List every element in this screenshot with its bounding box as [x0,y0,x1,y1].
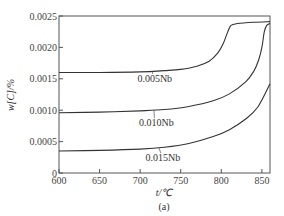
series-lines [59,22,270,151]
x-tick-label: 800 [214,175,229,186]
y-tick-label: 0.0005 [30,136,58,147]
series-line-0.005Nb [59,22,270,73]
x-tick-label: 700 [133,175,148,186]
y-tick-label: 0.0025 [30,11,58,22]
y-tick-label: 0.0020 [30,42,58,53]
series-label: 0.015Nb [146,152,181,163]
x-tick-label: 750 [173,175,188,186]
series-label: 0.005Nb [137,73,172,84]
y-axis: 00.00050.00100.00150.00200.0025 [30,11,64,179]
x-axis-label: t/℃ [156,187,175,198]
figure-caption: (a) [158,201,169,213]
x-tick-label: 600 [52,175,67,186]
line-chart: 00.00050.00100.00150.00200.0025 60065070… [0,0,284,216]
x-tick-label: 650 [92,175,107,186]
y-tick-label: 0.0015 [30,73,58,84]
plot-border [59,16,270,173]
x-tick-label: 850 [254,175,269,186]
y-tick-label: 0.0010 [30,105,58,116]
series-line-0.010Nb [59,24,270,113]
y-axis-label: w[C]/% [5,79,16,111]
x-axis: 600650700750800850 [52,169,270,186]
plot-area [59,16,270,173]
series-label: 0.010Nb [139,117,174,128]
